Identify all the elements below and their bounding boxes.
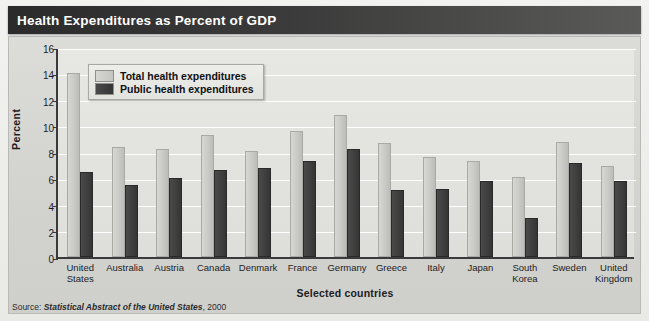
source-year: , 2000 bbox=[203, 302, 227, 312]
bar-public bbox=[303, 161, 316, 257]
bar-public bbox=[258, 168, 271, 257]
bar-total bbox=[423, 157, 436, 257]
bar-total bbox=[467, 161, 480, 257]
y-axis-label: Percent bbox=[10, 109, 22, 150]
bar-public bbox=[436, 189, 449, 257]
y-tick-label: 6 bbox=[48, 175, 54, 186]
bar-total bbox=[112, 147, 125, 257]
bar-total bbox=[67, 73, 80, 257]
legend-swatch-total-icon bbox=[95, 70, 114, 82]
legend-item-public: Public health expenditures bbox=[95, 82, 254, 95]
chart-figure: Health Expenditures as Percent of GDP Pe… bbox=[0, 0, 649, 321]
x-tick-label-line: United bbox=[586, 262, 642, 273]
chart-legend: Total health expenditures Public health … bbox=[88, 64, 264, 100]
y-tick-label: 16 bbox=[43, 44, 54, 55]
bar-public bbox=[125, 185, 138, 257]
x-tick-label-line: States bbox=[52, 273, 108, 284]
bar-public bbox=[525, 218, 538, 257]
bar-public bbox=[614, 181, 627, 257]
y-tick-label: 12 bbox=[43, 96, 54, 107]
y-tick-label: 8 bbox=[48, 149, 54, 160]
bar-group bbox=[467, 47, 493, 257]
bar-public bbox=[480, 181, 493, 257]
bar-total bbox=[512, 177, 525, 257]
bar-public bbox=[214, 170, 227, 257]
bar-public bbox=[347, 149, 360, 257]
source-publication: Statistical Abstract of the United State… bbox=[44, 302, 203, 312]
bar-group bbox=[290, 47, 316, 257]
x-axis-label: Selected countries bbox=[56, 287, 634, 299]
source-note: Source: Statistical Abstract of the Unit… bbox=[12, 302, 226, 312]
bar-group bbox=[423, 47, 449, 257]
legend-item-total: Total health expenditures bbox=[95, 69, 254, 82]
x-tick-label-line: Kingdom bbox=[586, 273, 642, 284]
bar-total bbox=[156, 149, 169, 257]
bar-total bbox=[245, 151, 258, 257]
y-tick-label: 2 bbox=[48, 227, 54, 238]
bar-group bbox=[601, 47, 627, 257]
source-prefix: Source: bbox=[12, 302, 41, 312]
bar-total bbox=[378, 143, 391, 257]
bar-group bbox=[556, 47, 582, 257]
title-banner: Health Expenditures as Percent of GDP bbox=[8, 6, 641, 34]
bar-total bbox=[601, 166, 614, 257]
legend-label-public: Public health expenditures bbox=[120, 83, 254, 95]
bar-group bbox=[334, 47, 360, 257]
bar-public bbox=[569, 163, 582, 258]
bar-total bbox=[201, 135, 214, 257]
bar-public bbox=[80, 172, 93, 257]
bar-public bbox=[391, 190, 404, 257]
legend-label-total: Total health expenditures bbox=[120, 70, 246, 82]
bar-public bbox=[169, 178, 182, 257]
x-tick-label: UnitedKingdom bbox=[586, 262, 642, 284]
legend-swatch-public-icon bbox=[95, 83, 114, 95]
x-tick-label-line: Korea bbox=[497, 273, 553, 284]
bar-total bbox=[290, 131, 303, 257]
page-title: Health Expenditures as Percent of GDP bbox=[8, 13, 276, 28]
bar-group bbox=[378, 47, 404, 257]
bar-group bbox=[512, 47, 538, 257]
y-tick-label: 4 bbox=[48, 201, 54, 212]
bar-total bbox=[556, 142, 569, 258]
y-tick-label: 10 bbox=[43, 122, 54, 133]
y-tick-label: 14 bbox=[43, 70, 54, 81]
bar-total bbox=[334, 115, 347, 257]
